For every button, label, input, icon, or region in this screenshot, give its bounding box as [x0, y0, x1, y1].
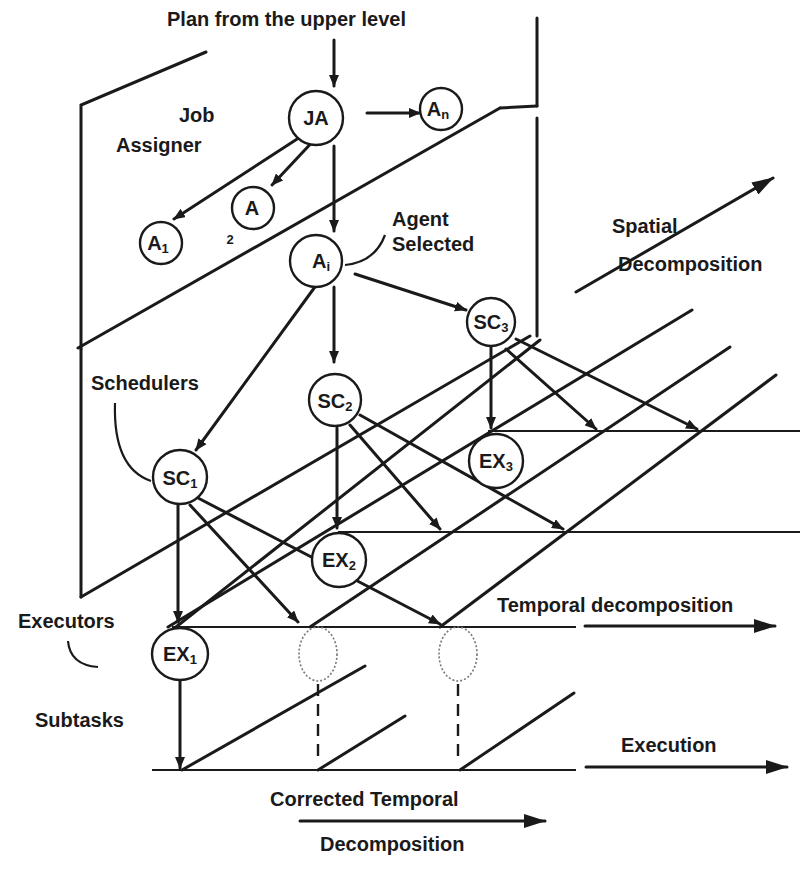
temporal-decomposition-label: Temporal decomposition: [497, 594, 733, 616]
future-executor-1: [299, 627, 337, 681]
svg-text:JA: JA: [303, 107, 329, 129]
node-sc3: SC3: [467, 298, 515, 346]
corrected-temporal-label-2: Decomposition: [320, 833, 464, 855]
node-ai: Ai: [290, 235, 342, 287]
schedulers-callout: [115, 403, 151, 481]
future-executor-2: [439, 627, 477, 681]
node-ex3: EX3: [469, 434, 523, 488]
hierarchical-decomposition-diagram: JA An A 2 A1 Ai SC3 SC2 SC1 EX3 EX2 EX1: [0, 0, 807, 874]
scheduler-plane: [81, 118, 537, 597]
execution-label: Execution: [621, 734, 717, 756]
node-an: An: [420, 88, 462, 130]
spatial-label: Spatial: [612, 215, 678, 237]
subtask-diagonals: [182, 666, 574, 770]
corrected-temporal-label: Corrected Temporal: [270, 788, 459, 810]
spatial-label-2: Decomposition: [618, 253, 762, 275]
job-assigner-label: Job: [179, 104, 215, 126]
subtasks-label: Subtasks: [35, 709, 124, 731]
agent-selected-label: Agent: [392, 208, 449, 230]
node-sc2: SC2: [309, 374, 361, 426]
node-ex2: EX2: [312, 533, 366, 587]
time-lines: [152, 431, 800, 821]
svg-text:2: 2: [226, 232, 233, 247]
agent-selected-callout: [345, 235, 385, 265]
executors-callout: [68, 641, 98, 667]
node-sc1: SC1: [153, 450, 207, 504]
svg-text:A: A: [245, 197, 259, 219]
edges: [174, 40, 697, 768]
node-ja: JA: [289, 91, 343, 145]
node-ex1: EX1: [152, 628, 208, 680]
node-a1: A1: [140, 222, 182, 264]
executors-label: Executors: [18, 610, 115, 632]
diagram-title: Plan from the upper level: [167, 8, 406, 30]
agent-selected-label-2: Selected: [392, 233, 474, 255]
node-a2: A 2: [226, 187, 274, 247]
schedulers-label: Schedulers: [91, 372, 199, 394]
job-assigner-label-2: Assigner: [116, 134, 202, 156]
